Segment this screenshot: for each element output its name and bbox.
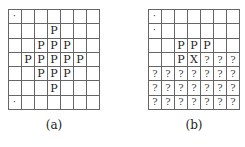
grid-cell <box>74 10 87 24</box>
grid-cell-unknown: ? <box>149 81 162 95</box>
grid-cell <box>9 24 22 38</box>
grid-cell-p: P <box>175 53 188 67</box>
grid-cell-dot: · <box>9 10 22 24</box>
grid-cell-p: P <box>48 39 61 53</box>
grid-cell <box>22 81 35 95</box>
grid-cell-x: X <box>188 53 201 67</box>
caption-b: (b) <box>174 118 214 132</box>
grid-cell-p: P <box>35 67 48 81</box>
grid-cell-p: P <box>175 39 188 53</box>
grid-cell <box>188 24 201 38</box>
grid-cell-p: P <box>61 39 74 53</box>
caption-a: (a) <box>34 118 74 132</box>
grid-cell <box>201 10 214 24</box>
grid-cell-unknown: ? <box>188 96 201 110</box>
grid-b: ··PPPPX???????????????????????? <box>148 9 240 110</box>
grid-cell <box>9 39 22 53</box>
grid-cell-unknown: ? <box>175 96 188 110</box>
grid-cell-dot: · <box>149 10 162 24</box>
grid-cell <box>61 24 74 38</box>
grid-cell <box>87 96 100 110</box>
grid-cell-p: P <box>22 53 35 67</box>
grid-cell-p: P <box>48 81 61 95</box>
grid-cell <box>9 53 22 67</box>
grid-cell <box>61 96 74 110</box>
grid-cell <box>35 96 48 110</box>
grid-cell-unknown: ? <box>162 96 175 110</box>
grid-cell-unknown: ? <box>162 81 175 95</box>
grid-cell <box>162 39 175 53</box>
grid-cell <box>48 96 61 110</box>
grid-cell-dot: · <box>9 96 22 110</box>
grid-cell <box>149 53 162 67</box>
grid-cell-unknown: ? <box>188 81 201 95</box>
grid-cell-p: P <box>188 39 201 53</box>
grid-cell-p: P <box>74 53 87 67</box>
grid-cell <box>87 10 100 24</box>
grid-cell-unknown: ? <box>227 53 240 67</box>
grid-cell <box>227 39 240 53</box>
grid-cell <box>87 53 100 67</box>
grid-cell-unknown: ? <box>175 67 188 81</box>
grid-cell-p: P <box>48 67 61 81</box>
grid-cell <box>162 10 175 24</box>
grid-cell-unknown: ? <box>214 53 227 67</box>
grid-cell <box>214 24 227 38</box>
grid-cell <box>22 10 35 24</box>
grid-cell <box>201 24 214 38</box>
grid-cell <box>87 67 100 81</box>
grid-cell-unknown: ? <box>214 96 227 110</box>
grid-cell <box>175 10 188 24</box>
grid-cell <box>61 10 74 24</box>
grid-cell <box>214 10 227 24</box>
grid-cell <box>35 81 48 95</box>
grid-cell-p: P <box>35 39 48 53</box>
grid-cell-p: P <box>61 67 74 81</box>
grid-cell <box>87 24 100 38</box>
grid-cell <box>22 24 35 38</box>
grid-cell <box>227 10 240 24</box>
grid-cell <box>175 24 188 38</box>
grid-cell-unknown: ? <box>227 67 240 81</box>
grid-cell <box>22 39 35 53</box>
grid-cell-unknown: ? <box>175 81 188 95</box>
grid-cell <box>188 10 201 24</box>
grid-cell-unknown: ? <box>201 81 214 95</box>
grid-cell-unknown: ? <box>214 81 227 95</box>
grid-cell-p: P <box>61 53 74 67</box>
grid-cell <box>22 96 35 110</box>
grid-cell <box>48 10 61 24</box>
grid-cell <box>87 81 100 95</box>
grid-cell-unknown: ? <box>201 53 214 67</box>
grid-cell-unknown: ? <box>188 67 201 81</box>
grid-cell-unknown: ? <box>149 67 162 81</box>
grid-cell <box>35 10 48 24</box>
grid-cell <box>35 24 48 38</box>
grid-cell-dot: · <box>149 24 162 38</box>
grid-cell-p: P <box>35 53 48 67</box>
grid-cell <box>74 67 87 81</box>
grid-cell <box>74 81 87 95</box>
grid-cell <box>22 67 35 81</box>
grid-cell <box>227 24 240 38</box>
grid-cell <box>87 39 100 53</box>
grid-cell-p: P <box>48 53 61 67</box>
grid-cell-unknown: ? <box>201 67 214 81</box>
grid-cell <box>9 67 22 81</box>
grid-cell <box>162 24 175 38</box>
grid-cell-unknown: ? <box>201 96 214 110</box>
grid-cell <box>149 39 162 53</box>
grid-cell <box>162 53 175 67</box>
grid-cell-unknown: ? <box>214 67 227 81</box>
grid-cell-p: P <box>201 39 214 53</box>
grid-cell <box>9 81 22 95</box>
grid-cell-p: P <box>48 24 61 38</box>
grid-cell-unknown: ? <box>162 67 175 81</box>
grid-a: ·PPPPPPPPPPPPP· <box>8 9 100 110</box>
grid-cell <box>74 24 87 38</box>
grid-cell-unknown: ? <box>149 96 162 110</box>
grid-cell-unknown: ? <box>227 81 240 95</box>
grid-cell-unknown: ? <box>227 96 240 110</box>
grid-cell <box>61 81 74 95</box>
grid-cell <box>74 96 87 110</box>
